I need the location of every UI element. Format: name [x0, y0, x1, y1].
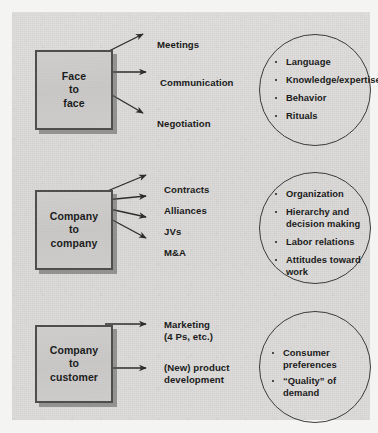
relationship-box-company-to-company[interactable]: Company to company: [35, 190, 113, 270]
attribute-list-company-to-customer: Consumer preferences “Quality” of demand: [270, 347, 374, 403]
list-item: Rituals: [273, 110, 375, 122]
relationship-box-label: Company to company: [50, 210, 99, 251]
diagram-panel: Face to face Company to company Company …: [12, 12, 370, 420]
list-item: “Quality” of demand: [270, 375, 374, 399]
list-item: Behavior: [273, 92, 375, 104]
list-item: Consumer preferences: [270, 347, 374, 371]
list-item: Labor relations: [273, 236, 373, 248]
outcome-label-jvs: JVs: [164, 226, 181, 238]
relationship-box-label: Company to customer: [50, 344, 99, 385]
list-item: Hierarchy and decision making: [273, 206, 373, 230]
outcome-label-communication: Communication: [160, 77, 234, 89]
outcome-label-negotiation: Negotiation: [157, 118, 211, 130]
list-item: Attitudes toward work: [273, 254, 373, 278]
relationship-box-face-to-face[interactable]: Face to face: [35, 50, 113, 130]
list-item: Language: [273, 56, 375, 68]
outcome-label-contracts: Contracts: [164, 184, 210, 196]
outcome-label-meetings: Meetings: [157, 39, 199, 51]
relationship-box-label: Face to face: [62, 70, 86, 111]
outcome-label-mna: M&A: [164, 247, 186, 259]
outcome-label-product-development: (New) product development: [164, 362, 230, 386]
attribute-list-company-to-company: Organization Hierarchy and decision maki…: [273, 188, 373, 284]
outcome-label-alliances: Alliances: [164, 205, 207, 217]
list-item: Organization: [273, 188, 373, 200]
list-item: Knowledge/expertise: [273, 74, 375, 86]
relationship-box-company-to-customer[interactable]: Company to customer: [35, 325, 113, 403]
figure-canvas: Face to face Company to company Company …: [0, 0, 378, 433]
attribute-list-face-to-face: Language Knowledge/expertise Behavior Ri…: [273, 56, 375, 128]
outcome-label-marketing: Marketing (4 Ps, etc.): [164, 319, 213, 343]
